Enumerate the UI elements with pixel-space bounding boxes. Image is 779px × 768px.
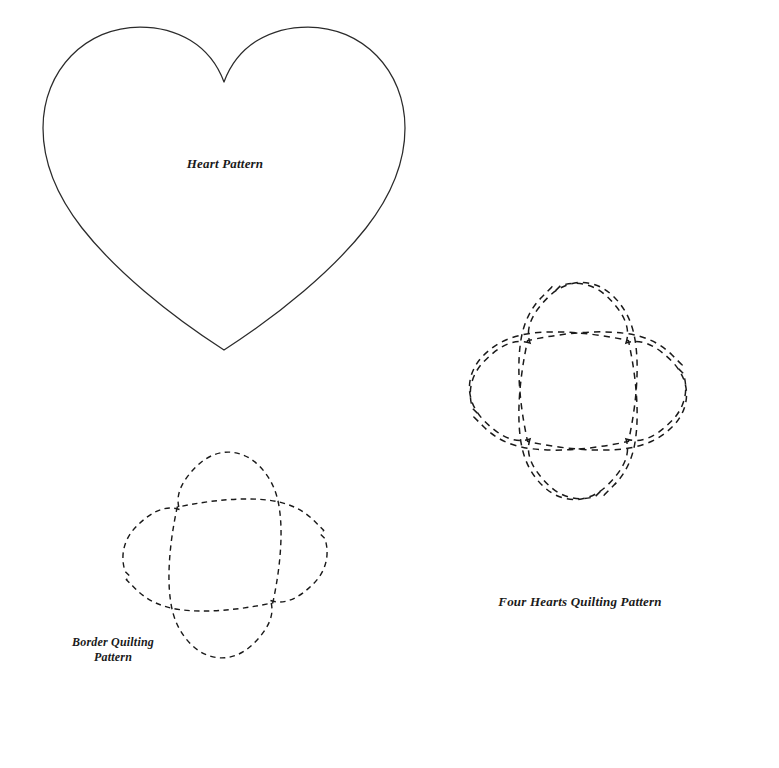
- border-pattern-label-line2: Pattern: [94, 650, 132, 664]
- pattern-artboard: Heart Pattern Four Hearts Quilting Patte…: [0, 0, 779, 768]
- pattern-sheet-page: Heart Pattern Four Hearts Quilting Patte…: [0, 0, 779, 768]
- four-hearts-pattern-label: Four Hearts Quilting Pattern: [497, 594, 661, 609]
- border-pattern-label-line1: Border Quilting: [71, 635, 154, 649]
- heart-pattern-label: Heart Pattern: [186, 156, 264, 171]
